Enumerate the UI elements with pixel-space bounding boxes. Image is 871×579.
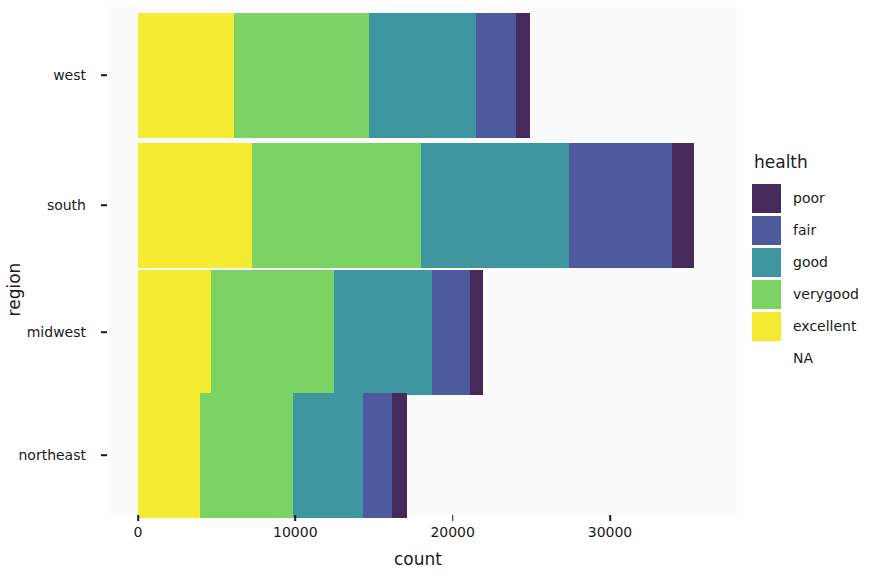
bar-segment-verygood[interactable] [200, 393, 293, 518]
x-axis-title: count [138, 549, 698, 569]
y-tick-mark [101, 74, 107, 76]
bar-segment-good[interactable] [293, 393, 363, 518]
legend-swatch-poor [752, 184, 781, 213]
legend-swatch-good [752, 248, 781, 277]
bar-segment-poor[interactable] [672, 143, 694, 268]
legend-label-fair: fair [793, 222, 816, 238]
legend-swatch-fair [752, 216, 781, 245]
legend-item-NA[interactable]: NA [752, 342, 871, 374]
legend-item-verygood[interactable]: verygood [752, 278, 871, 310]
y-tick-label-midwest: midwest [27, 324, 86, 340]
legend-items: poorfairgoodverygoodexcellentNA [752, 182, 871, 374]
bar-segment-fair[interactable] [363, 393, 392, 518]
bar-segment-excellent[interactable] [138, 393, 200, 518]
chart-root: region westsouthmidwestnortheast 0100002… [0, 0, 871, 579]
y-tick-label-south: south [47, 197, 86, 213]
bar-segment-verygood[interactable] [252, 143, 421, 268]
legend-label-excellent: excellent [793, 318, 856, 334]
bar-segment-good[interactable] [334, 270, 432, 395]
bar-segment-poor[interactable] [516, 13, 530, 138]
stacked-bar[interactable] [138, 393, 407, 518]
stacked-bar[interactable] [138, 143, 694, 268]
legend-label-good: good [793, 254, 828, 270]
stacked-bar[interactable] [138, 13, 530, 138]
y-axis-tick-group: westsouthmidwestnortheast [0, 0, 100, 579]
stacked-bar[interactable] [138, 270, 483, 395]
bar-row [138, 13, 738, 138]
legend-item-fair[interactable]: fair [752, 214, 871, 246]
bar-row [138, 270, 738, 395]
x-tick-mark [452, 515, 454, 521]
legend-label-verygood: verygood [793, 286, 859, 302]
bar-row [138, 143, 738, 268]
bar-segment-excellent[interactable] [138, 143, 252, 268]
legend-item-poor[interactable]: poor [752, 182, 871, 214]
bar-segment-fair[interactable] [476, 13, 515, 138]
legend-swatch-excellent [752, 312, 781, 341]
y-tick-label-west: west [53, 67, 86, 83]
legend: health poorfairgoodverygoodexcellentNA [752, 152, 871, 374]
legend-item-good[interactable]: good [752, 246, 871, 278]
bar-segment-poor[interactable] [392, 393, 407, 518]
bar-segment-verygood[interactable] [211, 270, 334, 395]
bar-segment-fair[interactable] [432, 270, 470, 395]
legend-label-poor: poor [793, 190, 825, 206]
x-tick-label-10000: 10000 [273, 524, 318, 540]
bar-row [138, 393, 738, 518]
x-tick-label-30000: 30000 [588, 524, 633, 540]
x-tick-label-20000: 20000 [430, 524, 475, 540]
x-tick-mark [609, 515, 611, 521]
bar-segment-good[interactable] [421, 143, 569, 268]
legend-title: health [754, 152, 871, 172]
x-tick-mark [137, 515, 139, 521]
y-tick-mark [101, 204, 107, 206]
plot-panel [108, 6, 738, 515]
bar-segment-poor[interactable] [470, 270, 483, 395]
bar-segment-verygood[interactable] [234, 13, 369, 138]
legend-label-NA: NA [793, 350, 813, 366]
y-tick-mark [101, 331, 107, 333]
y-tick-mark [101, 454, 107, 456]
y-tick-label-northeast: northeast [18, 447, 86, 463]
x-tick-mark [295, 515, 297, 521]
legend-swatch-verygood [752, 280, 781, 309]
bar-segment-good[interactable] [369, 13, 476, 138]
x-tick-label-0: 0 [134, 524, 143, 540]
legend-swatch-NA [752, 344, 781, 373]
bar-segment-fair[interactable] [569, 143, 672, 268]
legend-item-excellent[interactable]: excellent [752, 310, 871, 342]
bar-segment-excellent[interactable] [138, 270, 211, 395]
bar-segment-excellent[interactable] [138, 13, 234, 138]
